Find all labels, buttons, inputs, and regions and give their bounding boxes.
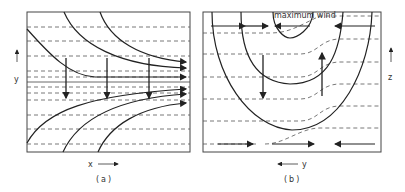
panel-a: y x (a)	[14, 12, 190, 184]
panel-a-x-axis-indicator: x	[88, 160, 118, 169]
panel-b-caption: (b)	[284, 175, 301, 184]
panel-b-z-axis-indicator: z	[388, 48, 392, 82]
panel-b-isotachs	[212, 12, 372, 130]
panel-a-vertical-motion-arrows	[66, 58, 149, 98]
x-axis-label: x	[88, 160, 93, 169]
panel-a-dashed-lines	[27, 27, 190, 144]
y-axis-label: y	[14, 75, 19, 84]
panel-a-y-axis-indicator: y	[14, 50, 19, 84]
panel-b-frame	[203, 12, 381, 152]
panel-a-caption: (a)	[96, 175, 113, 184]
panel-b: maximum wind z y (b)	[203, 11, 392, 184]
panel-b-horizontal-arrows	[211, 26, 375, 144]
panel-b-y-axis-indicator: y	[278, 160, 307, 169]
z-axis-label: z	[388, 73, 392, 82]
diagram: y x (a)	[0, 0, 405, 192]
panel-b-y-axis-label: y	[302, 160, 307, 169]
maximum-wind-label: maximum wind	[274, 11, 336, 20]
panel-b-dashed-lines	[203, 16, 381, 144]
panel-b-vertical-motion-arrows	[263, 53, 322, 98]
